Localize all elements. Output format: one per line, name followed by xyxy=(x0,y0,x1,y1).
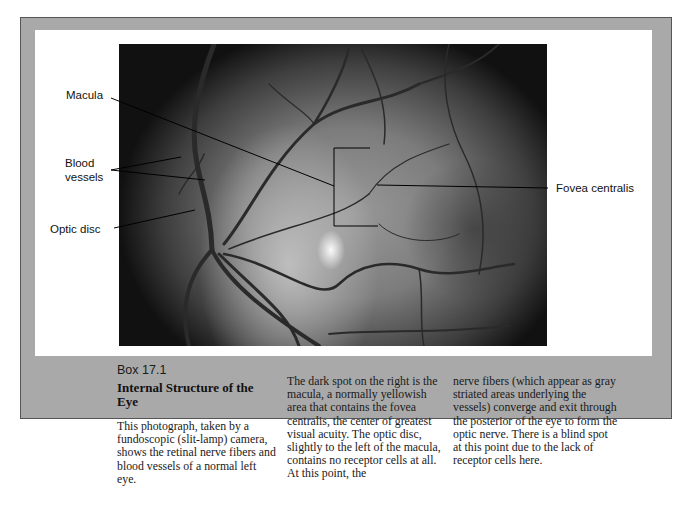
caption-column-1: This photograph, taken by a fundoscopic … xyxy=(117,420,277,486)
caption-column-2: The dark spot on the right is the macula… xyxy=(287,375,447,481)
optic-disc-label: Optic disc xyxy=(50,222,101,236)
blood-vessels-label-line1: Blood xyxy=(65,156,94,170)
blood-vessels-label-line2: vessels xyxy=(65,170,103,184)
box-number: Box 17.1 xyxy=(117,363,166,377)
macula-label: Macula xyxy=(66,88,103,102)
fovea-centralis-label: Fovea centralis xyxy=(556,181,634,195)
caption-title: Internal Structure of the Eye xyxy=(117,381,257,409)
caption-column-3: nerve fibers (which appear as gray stria… xyxy=(453,375,618,467)
